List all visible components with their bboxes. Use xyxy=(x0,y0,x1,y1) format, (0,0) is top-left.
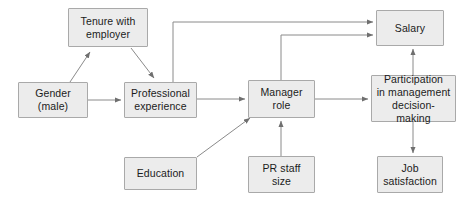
node-label: Manager role xyxy=(257,86,305,112)
edge-education-to-manager xyxy=(197,118,250,157)
node-label: Gender (male) xyxy=(32,87,74,113)
node-label: Professional experience xyxy=(128,87,193,113)
node-pr-staff-size[interactable]: PR staff size xyxy=(248,156,315,193)
node-education[interactable]: Education xyxy=(124,157,197,190)
edge-tenure-to-professional xyxy=(131,48,154,78)
node-label: Participation in management decision-mak… xyxy=(372,73,455,125)
node-salary[interactable]: Salary xyxy=(376,10,444,46)
node-tenure-with-employer[interactable]: Tenure with employer xyxy=(68,8,148,47)
path-diagram: Tenure with employer Gender (male) Profe… xyxy=(0,0,464,203)
node-professional-experience[interactable]: Professional experience xyxy=(124,82,197,118)
node-label: Job satisfaction xyxy=(380,162,440,188)
edge-gender-to-tenure xyxy=(70,52,90,82)
edge-professional-to-salary xyxy=(173,22,373,82)
node-job-satisfaction[interactable]: Job satisfaction xyxy=(377,156,443,193)
node-manager-role[interactable]: Manager role xyxy=(248,80,315,118)
node-gender-male[interactable]: Gender (male) xyxy=(18,82,88,118)
node-label: PR staff size xyxy=(260,162,304,188)
node-label: Education xyxy=(134,167,188,180)
node-participation-in-management-decision-making[interactable]: Participation in management decision-mak… xyxy=(371,75,456,122)
node-label: Salary xyxy=(392,22,428,35)
node-label: Tenure with employer xyxy=(78,15,139,41)
edge-manager-to-salary xyxy=(281,35,373,80)
